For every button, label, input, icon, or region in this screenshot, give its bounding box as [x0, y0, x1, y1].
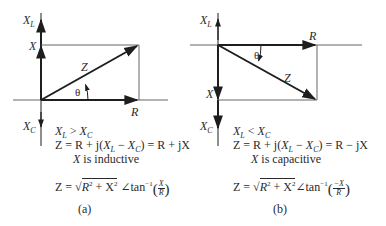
- panel-a-impedance-equation: Z = R + j(XL − XC) = R + jX: [55, 139, 190, 152]
- panel-a-z-phasor: [41, 46, 137, 100]
- panel-a-xl-label: XL: [23, 14, 35, 26]
- panel-a-z-label: Z: [81, 61, 88, 73]
- panel-b-caption: (b): [273, 203, 287, 215]
- panel-b-reactance-type: X is capacitive: [251, 153, 321, 166]
- panel-a-r-label: R: [131, 106, 138, 118]
- panel-b-r-label: R: [309, 30, 316, 42]
- panel-a-theta-arc: [86, 85, 89, 101]
- panel-b-x-label: X: [206, 88, 213, 100]
- panel-b-z-phasor: [218, 45, 315, 99]
- panel-a-condition: XL > XC: [55, 125, 92, 138]
- panel-b-theta-label: θ: [254, 50, 259, 61]
- panel-b-diagram: [190, 13, 362, 146]
- panel-a-xc-label: XC: [23, 120, 36, 132]
- panel-b-xl-label: XL: [200, 14, 212, 26]
- panel-a-x-label: X: [29, 40, 36, 52]
- panel-b-condition: XL < XC: [233, 125, 270, 138]
- panel-a-reactance-type: X is inductive: [73, 153, 139, 166]
- panel-b-z-label: Z: [284, 72, 291, 84]
- panel-a-polar-form: Z = √R2 + X2 ∠tan−1(XR): [55, 180, 170, 197]
- panel-b-polar-form: Z = √R2 + X2∠tan−1(−XR): [233, 180, 350, 197]
- panel-b-xc-label: XC: [200, 120, 213, 132]
- panel-b-impedance-equation: Z = R + j(XL − XC) = R − jX: [233, 139, 368, 152]
- panel-a-theta-label: θ: [75, 87, 80, 98]
- panel-a-caption: (a): [78, 203, 91, 215]
